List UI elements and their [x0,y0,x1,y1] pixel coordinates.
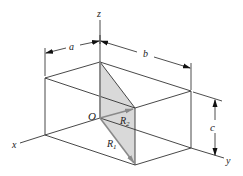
box-diagram: z x y O a b c R2 R1 [0,0,243,176]
dimension-b-label: b [143,48,148,59]
x-axis [20,135,45,143]
y-axis [191,148,224,158]
dimension-a-label: a [69,41,74,52]
dimension-c-label: c [210,121,215,133]
z-axis-label: z [96,8,101,19]
x-axis-label: x [11,139,17,150]
y-axis-label: y [225,155,231,166]
origin-label: O [88,110,96,122]
r1-label: R1 [106,138,117,151]
